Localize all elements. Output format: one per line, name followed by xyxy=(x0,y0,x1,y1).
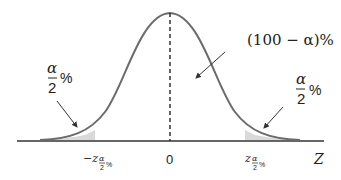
tick-neg-z-alpha-half: −z α 2 % xyxy=(83,152,112,171)
svg-text:%: % xyxy=(259,161,265,168)
left-tail-two: 2 xyxy=(48,79,56,96)
left-tail-alpha: α xyxy=(47,59,57,77)
right-tail-arrow xyxy=(264,107,283,128)
svg-text:α: α xyxy=(252,154,258,163)
right-tail-two: 2 xyxy=(297,90,305,107)
svg-text:α: α xyxy=(99,154,105,163)
left-tail-percent: % xyxy=(60,70,72,86)
svg-text:2: 2 xyxy=(100,164,104,171)
center-area-label: (100 − α)% xyxy=(247,31,334,49)
right-tail-percent: % xyxy=(309,82,321,98)
svg-text:z: z xyxy=(244,152,251,165)
svg-text:2: 2 xyxy=(253,164,257,171)
svg-text:%: % xyxy=(106,161,112,168)
left-tail-arrow xyxy=(57,101,77,127)
center-area-arrow xyxy=(196,52,225,78)
normal-distribution-diagram: (100 − α)% α 2 % α 2 % 0 −z α 2 % z α 2 … xyxy=(0,0,341,180)
svg-text:−z: −z xyxy=(83,152,98,165)
right-tail-alpha: α xyxy=(296,70,306,88)
axis-label-z: Z xyxy=(313,151,324,167)
tick-zero: 0 xyxy=(166,152,173,167)
tick-z-alpha-half: z α 2 % xyxy=(244,152,265,171)
